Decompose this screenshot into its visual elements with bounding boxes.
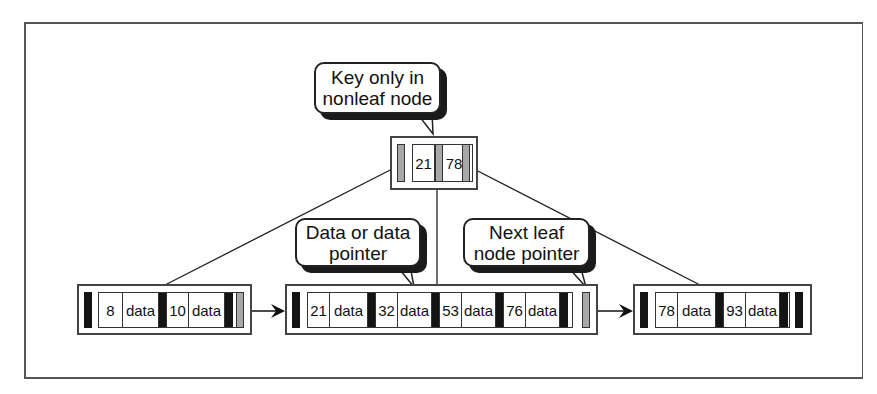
leaf-pointer xyxy=(159,293,167,327)
leaf-pointer xyxy=(368,293,376,327)
root-key: 21 xyxy=(413,145,435,181)
callout-key-only: Key only in nonleaf node xyxy=(314,62,441,114)
leaf-entries: 21 data 32 data 53 data 76 data xyxy=(307,292,573,328)
leaf-key: 8 xyxy=(99,293,123,327)
leaf-pointer xyxy=(716,293,724,327)
leaf-entries: 78 data 93 data xyxy=(655,292,790,328)
leaf-data: data xyxy=(462,293,496,327)
leaf-node-1: 8 data 10 data xyxy=(77,284,252,335)
leaf-pointer xyxy=(225,293,233,327)
leaf-key: 78 xyxy=(656,293,678,327)
callout-next-leaf: Next leaf node pointer xyxy=(463,218,590,267)
leaf-key: 93 xyxy=(724,293,746,327)
leaf-key: 10 xyxy=(167,293,189,327)
leaf-data: data xyxy=(189,293,225,327)
leaf-data: data xyxy=(330,293,368,327)
leaf-pointer xyxy=(640,292,648,328)
next-leaf-pointer xyxy=(582,292,590,328)
leaf-data: data xyxy=(746,293,780,327)
leaf-key: 76 xyxy=(504,293,526,327)
next-leaf-pointer xyxy=(236,292,244,328)
leaf-data: data xyxy=(398,293,432,327)
leaf-pointer xyxy=(432,293,440,327)
leaf-node-2: 21 data 32 data 53 data 76 data xyxy=(285,284,598,335)
leaf-data: data xyxy=(123,293,159,327)
child-pointer-middle xyxy=(435,145,443,181)
leaf-pointer xyxy=(780,293,788,327)
leaf-pointer xyxy=(560,293,568,327)
leaf-node-3: 78 data 93 data xyxy=(633,284,812,335)
leaf-key: 53 xyxy=(440,293,462,327)
leaf-key: 21 xyxy=(308,293,330,327)
leaf-pointer xyxy=(84,292,92,328)
leaf-key: 32 xyxy=(376,293,398,327)
child-pointer-right xyxy=(462,144,470,182)
child-pointer-left xyxy=(397,144,405,182)
leaf-pointer xyxy=(292,292,300,328)
leaf-data: data xyxy=(526,293,560,327)
root-node: 21 78 xyxy=(390,136,478,190)
leaf-pointer xyxy=(496,293,504,327)
next-leaf-pointer xyxy=(795,292,803,328)
leaf-entries: 8 data 10 data xyxy=(98,292,240,328)
callout-data-pointer: Data or data pointer xyxy=(295,218,421,267)
leaf-data: data xyxy=(678,293,716,327)
